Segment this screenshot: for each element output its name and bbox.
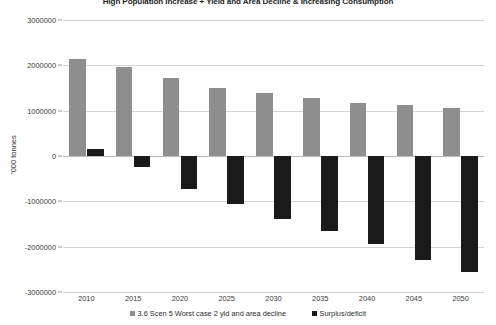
bar bbox=[69, 59, 86, 156]
bar-group bbox=[390, 20, 437, 292]
y-tick-mark bbox=[58, 65, 62, 66]
x-tick-label: 2035 bbox=[312, 294, 328, 303]
legend-swatch-icon bbox=[130, 311, 135, 316]
bar bbox=[461, 156, 478, 272]
bar-group bbox=[157, 20, 204, 292]
x-tick-label: 2045 bbox=[406, 294, 422, 303]
x-tick-label: 2050 bbox=[452, 294, 468, 303]
y-tick-label: 2000000 bbox=[0, 61, 56, 70]
y-tick-mark bbox=[58, 292, 62, 293]
bar bbox=[181, 156, 198, 189]
chart-title: High Population Increase + Yield and Are… bbox=[0, 0, 496, 6]
y-tick-label: 3000000 bbox=[0, 16, 56, 25]
legend-label: Surplus/deficit bbox=[320, 309, 366, 318]
x-tick-label: 2015 bbox=[125, 294, 141, 303]
bar bbox=[397, 105, 414, 156]
bar-group bbox=[437, 20, 484, 292]
bar bbox=[368, 156, 385, 244]
y-axis-title: '000 tonnes bbox=[9, 105, 18, 205]
bar-group bbox=[63, 20, 110, 292]
bar bbox=[227, 156, 244, 204]
legend-swatch-icon bbox=[312, 311, 317, 316]
plot-area bbox=[63, 20, 484, 292]
y-tick-mark bbox=[58, 246, 62, 247]
chart-legend: 3.6 Scen 5 Worst case 2 yld and area dec… bbox=[0, 309, 496, 318]
bar bbox=[443, 108, 460, 156]
x-tick-label: 2030 bbox=[265, 294, 281, 303]
bar bbox=[415, 156, 432, 260]
y-tick-label: -2000000 bbox=[0, 242, 56, 251]
gridline bbox=[63, 292, 484, 293]
bar-chart: High Population Increase + Yield and Are… bbox=[0, 0, 496, 325]
bar bbox=[274, 156, 291, 219]
bar bbox=[256, 93, 273, 156]
y-tick-label: -3000000 bbox=[0, 288, 56, 297]
bar bbox=[163, 78, 180, 156]
bar bbox=[116, 67, 133, 156]
legend-label: 3.6 Scen 5 Worst case 2 yld and area dec… bbox=[137, 309, 286, 318]
y-tick-mark bbox=[58, 110, 62, 111]
bar bbox=[303, 98, 320, 156]
bar bbox=[350, 103, 367, 156]
x-tick-label: 2025 bbox=[218, 294, 234, 303]
bar-group bbox=[203, 20, 250, 292]
legend-entry: Surplus/deficit bbox=[312, 309, 366, 318]
bar bbox=[87, 149, 104, 156]
x-tick-label: 2020 bbox=[172, 294, 188, 303]
x-tick-label: 2040 bbox=[359, 294, 375, 303]
bar-group bbox=[297, 20, 344, 292]
x-tick-label: 2010 bbox=[78, 294, 94, 303]
bar bbox=[321, 156, 338, 231]
y-tick-mark bbox=[58, 201, 62, 202]
bar-group bbox=[250, 20, 297, 292]
y-tick-mark bbox=[58, 156, 62, 157]
bar bbox=[209, 88, 226, 156]
y-tick-mark bbox=[58, 20, 62, 21]
bar bbox=[134, 156, 151, 167]
x-axis: 201020152020202520302035204020452050 bbox=[63, 294, 484, 306]
bar-group bbox=[110, 20, 157, 292]
bar-group bbox=[344, 20, 391, 292]
legend-entry: 3.6 Scen 5 Worst case 2 yld and area dec… bbox=[130, 309, 286, 318]
